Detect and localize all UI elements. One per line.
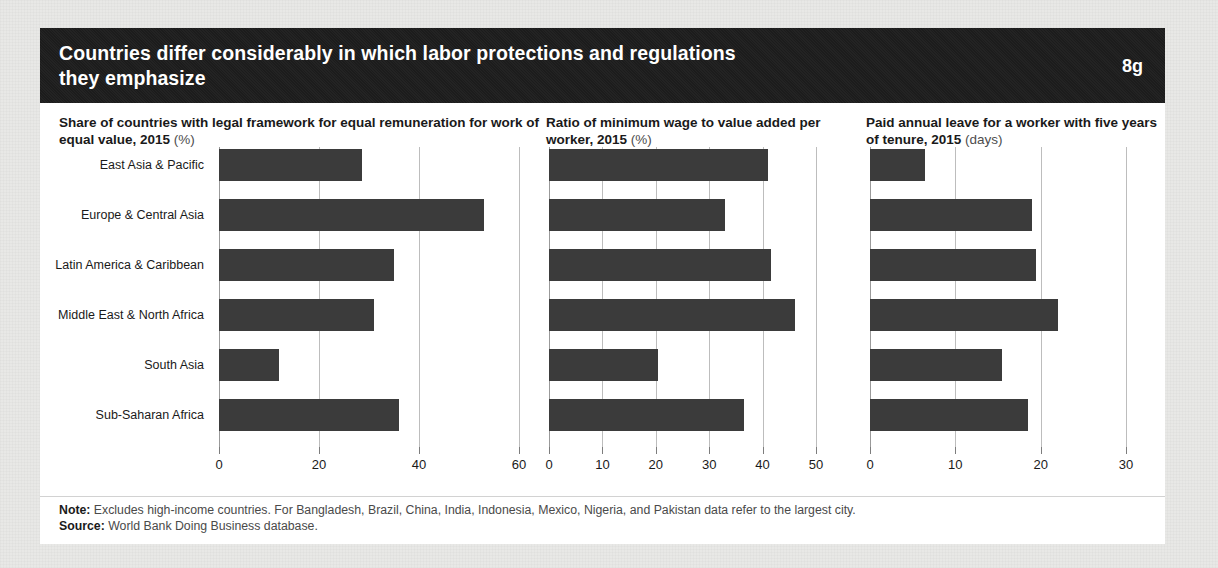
- bar: [219, 349, 279, 381]
- axis-tick: [870, 447, 871, 454]
- panel-2-title: Ratio of minimum wage to value added per…: [541, 103, 861, 147]
- category-label: Europe & Central Asia: [81, 199, 204, 231]
- panel-1-bars: [219, 147, 519, 447]
- note-text: Excludes high-income countries. For Bang…: [90, 503, 855, 517]
- bar: [549, 149, 768, 181]
- bar: [549, 299, 795, 331]
- bar: [549, 349, 658, 381]
- axis-tick-label: 20: [649, 457, 663, 472]
- source-text: World Bank Doing Business database.: [105, 519, 318, 533]
- axis-tick: [709, 447, 710, 454]
- panel-equal-remuneration: Share of countries with legal framework …: [40, 103, 541, 504]
- bar: [870, 299, 1058, 331]
- figure-footer: Note: Excludes high-income countries. Fo…: [40, 496, 1165, 544]
- axis-tick: [319, 447, 320, 454]
- category-labels: East Asia & PacificEurope & Central Asia…: [40, 147, 212, 447]
- axis-tick: [219, 447, 220, 454]
- bar-row: [870, 349, 1126, 381]
- bar: [549, 199, 725, 231]
- panel-3-title-main: Paid annual leave for a worker with five…: [866, 115, 1157, 147]
- bar: [219, 149, 362, 181]
- panel-1-axis: 0204060: [219, 447, 519, 483]
- axis-tick: [763, 447, 764, 454]
- category-label: Middle East & North Africa: [58, 299, 204, 331]
- bar-row: [219, 349, 519, 381]
- gridline: [519, 147, 520, 447]
- bar: [870, 349, 1002, 381]
- bar: [549, 249, 771, 281]
- bar-row: [549, 399, 816, 431]
- bar-row: [219, 299, 519, 331]
- bar: [219, 399, 399, 431]
- bar-row: [219, 199, 519, 231]
- axis-tick-label: 0: [215, 457, 222, 472]
- axis-tick-label: 40: [755, 457, 769, 472]
- bar-row: [870, 149, 1126, 181]
- gridline: [1126, 147, 1127, 447]
- bar: [870, 249, 1036, 281]
- panel-paid-annual-leave: Paid annual leave for a worker with five…: [861, 103, 1165, 504]
- note-line: Note: Excludes high-income countries. Fo…: [59, 503, 1149, 519]
- axis-tick-label: 60: [512, 457, 526, 472]
- bar-row: [219, 149, 519, 181]
- bar-row: [870, 249, 1126, 281]
- panels-container: Share of countries with legal framework …: [40, 103, 1165, 504]
- bar: [870, 199, 1032, 231]
- panel-3-axis: 0102030: [870, 447, 1126, 483]
- bar: [870, 399, 1028, 431]
- note-label: Note:: [59, 503, 90, 517]
- bar: [870, 149, 925, 181]
- panel-1-title: Share of countries with legal framework …: [40, 103, 541, 147]
- axis-tick-label: 40: [412, 457, 426, 472]
- panel-3-title: Paid annual leave for a worker with five…: [861, 103, 1165, 147]
- axis-tick-label: 0: [866, 457, 873, 472]
- axis-tick-label: 20: [312, 457, 326, 472]
- gridline: [816, 147, 817, 447]
- category-label: South Asia: [144, 349, 204, 381]
- bar-row: [549, 349, 816, 381]
- bar-row: [219, 249, 519, 281]
- bar-row: [870, 399, 1126, 431]
- panel-1-plot: [219, 147, 519, 447]
- bar-row: [870, 199, 1126, 231]
- panel-minimum-wage-ratio: Ratio of minimum wage to value added per…: [541, 103, 861, 504]
- axis-tick-label: 30: [1119, 457, 1133, 472]
- bar: [549, 399, 744, 431]
- bar-row: [870, 299, 1126, 331]
- panel-2-axis: 01020304050: [549, 447, 816, 483]
- bar-row: [549, 199, 816, 231]
- source-line: Source: World Bank Doing Business databa…: [59, 519, 1149, 535]
- bar: [219, 199, 484, 231]
- category-label: Latin America & Caribbean: [55, 249, 204, 281]
- axis-tick: [519, 447, 520, 454]
- panel-3-plot: [870, 147, 1126, 447]
- figure-title: Countries differ considerably in which l…: [40, 41, 759, 91]
- figure-number-badge: 8g: [1122, 55, 1143, 76]
- panel-1-unit: (%): [174, 132, 195, 147]
- panel-3-unit: (days): [965, 132, 1003, 147]
- figure-header: Countries differ considerably in which l…: [40, 28, 1165, 103]
- axis-tick-label: 10: [595, 457, 609, 472]
- axis-tick: [602, 447, 603, 454]
- panel-2-plot: [549, 147, 816, 447]
- axis-tick-label: 20: [1033, 457, 1047, 472]
- axis-tick: [1041, 447, 1042, 454]
- bar: [219, 299, 374, 331]
- axis-tick: [955, 447, 956, 454]
- axis-tick: [1126, 447, 1127, 454]
- panel-1-title-main: Share of countries with legal framework …: [59, 115, 539, 147]
- bar-row: [549, 149, 816, 181]
- axis-tick-label: 30: [702, 457, 716, 472]
- source-label: Source:: [59, 519, 105, 533]
- panel-2-title-main: Ratio of minimum wage to value added per…: [546, 115, 821, 147]
- axis-tick: [419, 447, 420, 454]
- bar-row: [549, 299, 816, 331]
- panel-2-unit: (%): [631, 132, 652, 147]
- category-label: Sub-Saharan Africa: [96, 399, 204, 431]
- axis-tick-label: 0: [545, 457, 552, 472]
- panel-2-bars: [549, 147, 816, 447]
- bar-row: [549, 249, 816, 281]
- panel-3-bars: [870, 147, 1126, 447]
- bar: [219, 249, 394, 281]
- figure-card: Countries differ considerably in which l…: [40, 28, 1165, 544]
